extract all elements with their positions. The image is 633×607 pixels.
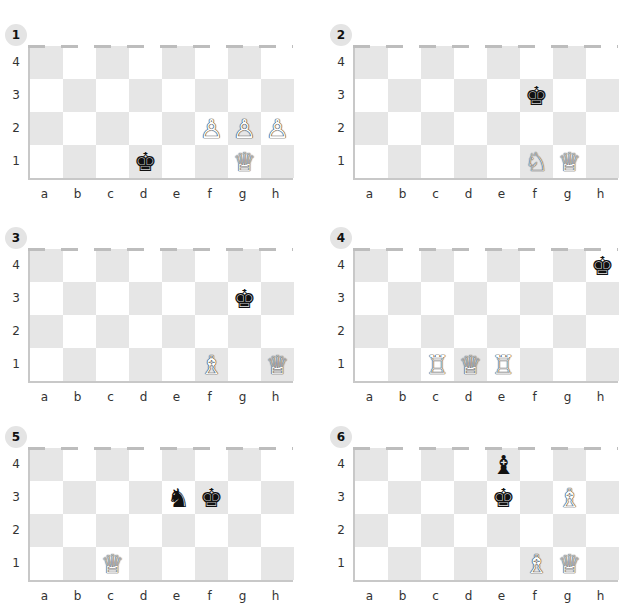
square-a2 xyxy=(355,514,388,547)
square-g2 xyxy=(553,112,586,145)
rank-label: 1 xyxy=(325,357,345,371)
square-h1 xyxy=(586,145,619,178)
square-e2 xyxy=(487,112,520,145)
puzzle-number-badge: 3 xyxy=(5,227,27,249)
square-f4 xyxy=(520,46,553,79)
white-queen-icon: ♕ xyxy=(558,149,581,175)
square-e4 xyxy=(487,46,520,79)
square-d1 xyxy=(454,145,487,178)
square-e3 xyxy=(487,282,520,315)
square-a3 xyxy=(355,481,388,514)
square-g3 xyxy=(228,79,261,112)
square-b4 xyxy=(63,46,96,79)
square-g2 xyxy=(553,315,586,348)
square-h4: ♚ xyxy=(586,249,619,282)
square-g4 xyxy=(553,46,586,79)
square-h3 xyxy=(586,79,619,112)
puzzle-number-badge: 5 xyxy=(5,426,27,448)
square-b4 xyxy=(63,448,96,481)
rank-label: 3 xyxy=(0,88,20,102)
puzzle-3: 3♚♗♕4321abcdefgh xyxy=(0,249,300,439)
white-pawn-icon: ♙ xyxy=(266,116,289,142)
board-top-dashed-edge xyxy=(353,447,618,450)
square-f1 xyxy=(195,547,228,580)
rank-label: 4 xyxy=(0,258,20,272)
puzzle-5: 5♞♚♕4321abcdefgh xyxy=(0,448,300,607)
rank-label: 1 xyxy=(0,556,20,570)
square-f3 xyxy=(195,79,228,112)
square-b3 xyxy=(63,282,96,315)
square-g4 xyxy=(553,249,586,282)
square-f4 xyxy=(195,448,228,481)
file-label: a xyxy=(28,390,61,404)
file-label: c xyxy=(419,589,452,603)
square-d2 xyxy=(129,112,162,145)
square-b4 xyxy=(388,46,421,79)
square-f4 xyxy=(195,249,228,282)
square-a2 xyxy=(30,112,63,145)
white-queen-icon: ♕ xyxy=(459,352,482,378)
square-h3 xyxy=(261,282,294,315)
square-b1 xyxy=(388,348,421,381)
square-e4 xyxy=(162,46,195,79)
square-d4 xyxy=(454,249,487,282)
white-rook-icon: ♖ xyxy=(426,352,449,378)
square-g1: ♕ xyxy=(228,145,261,178)
square-f4 xyxy=(520,448,553,481)
file-label: g xyxy=(226,589,259,603)
square-g4 xyxy=(228,448,261,481)
square-c3 xyxy=(96,79,129,112)
square-b2 xyxy=(388,112,421,145)
black-king-icon: ♚ xyxy=(492,485,515,511)
file-label: d xyxy=(452,390,485,404)
square-a4 xyxy=(355,448,388,481)
square-e4: ♝ xyxy=(487,448,520,481)
square-c1: ♕ xyxy=(96,547,129,580)
square-g3 xyxy=(228,481,261,514)
square-f3: ♚ xyxy=(195,481,228,514)
rank-label: 2 xyxy=(0,523,20,537)
square-b3 xyxy=(388,481,421,514)
square-d2 xyxy=(454,514,487,547)
square-e1 xyxy=(487,547,520,580)
rank-label: 2 xyxy=(0,121,20,135)
square-g1 xyxy=(228,348,261,381)
file-label: b xyxy=(386,589,419,603)
square-d1: ♕ xyxy=(454,348,487,381)
rank-label: 2 xyxy=(0,324,20,338)
square-e3 xyxy=(162,79,195,112)
square-a4 xyxy=(30,448,63,481)
file-label: e xyxy=(160,589,193,603)
square-d1: ♚ xyxy=(129,145,162,178)
square-g2 xyxy=(553,514,586,547)
square-h1 xyxy=(586,348,619,381)
square-g1 xyxy=(553,348,586,381)
square-a1 xyxy=(355,348,388,381)
square-b3 xyxy=(63,481,96,514)
square-c3 xyxy=(421,282,454,315)
square-g3 xyxy=(553,79,586,112)
rank-label: 4 xyxy=(0,55,20,69)
square-h2 xyxy=(586,514,619,547)
square-a1 xyxy=(30,547,63,580)
square-a3 xyxy=(355,79,388,112)
file-label: b xyxy=(61,390,94,404)
square-a3 xyxy=(30,282,63,315)
rank-label: 1 xyxy=(0,357,20,371)
square-h1 xyxy=(261,145,294,178)
square-a2 xyxy=(355,315,388,348)
file-label: g xyxy=(226,390,259,404)
square-a1 xyxy=(355,145,388,178)
file-label: f xyxy=(193,187,226,201)
white-rook-icon: ♖ xyxy=(492,352,515,378)
square-a3 xyxy=(355,282,388,315)
square-a3 xyxy=(30,79,63,112)
square-c3 xyxy=(421,79,454,112)
square-e1 xyxy=(487,145,520,178)
board-top-dashed-edge xyxy=(28,45,293,48)
square-e2 xyxy=(162,514,195,547)
file-label: h xyxy=(584,390,617,404)
rank-label: 4 xyxy=(325,55,345,69)
rank-label: 1 xyxy=(325,556,345,570)
square-g3 xyxy=(553,282,586,315)
